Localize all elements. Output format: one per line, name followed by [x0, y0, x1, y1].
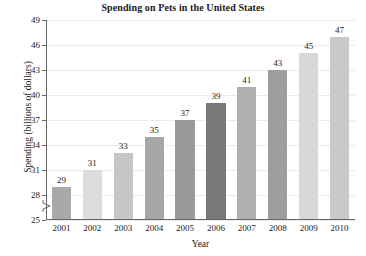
- bar-group: 37: [175, 20, 194, 220]
- y-axis-tick-label: 46: [31, 41, 40, 50]
- x-axis-tick-label: 2010: [324, 223, 355, 234]
- x-axis-tick-label: 2005: [170, 223, 201, 234]
- bar-value-label: 47: [330, 25, 349, 35]
- y-axis-tick-label: 37: [31, 116, 40, 125]
- bar-value-label: 33: [114, 141, 133, 151]
- bar-value-label: 39: [206, 91, 225, 101]
- x-axis-tick-label: 2007: [231, 223, 262, 234]
- bar: [299, 53, 318, 220]
- bar-value-label: 45: [299, 41, 318, 51]
- x-axis-tick-labels: 2001200220032004200520062007200820092010: [46, 223, 355, 237]
- bar-group: 41: [237, 20, 256, 220]
- y-axis-tick-mark: [42, 220, 46, 221]
- x-axis-tick-label: 2004: [139, 223, 170, 234]
- bar-group: 33: [114, 20, 133, 220]
- bar: [330, 37, 349, 220]
- bar-group: 31: [83, 20, 102, 220]
- bar-chart-figure: Spending on Pets in the United States Sp…: [0, 0, 366, 256]
- x-axis-tick-label: 2009: [293, 223, 324, 234]
- x-axis-title: Year: [46, 238, 355, 250]
- x-axis-tick-label: 2006: [201, 223, 232, 234]
- bar-value-label: 43: [268, 58, 287, 68]
- y-axis-tick-label: 25: [31, 216, 40, 225]
- bar-value-label: 31: [83, 158, 102, 168]
- x-axis-tick-label: 2003: [108, 223, 139, 234]
- x-axis-line: [46, 219, 355, 220]
- axis-break-icon: [42, 200, 51, 213]
- x-axis-tick-label: 2002: [77, 223, 108, 234]
- x-axis-tick-label: 2008: [262, 223, 293, 234]
- bar: [114, 153, 133, 220]
- bar: [268, 70, 287, 220]
- chart-title: Spending on Pets in the United States: [0, 1, 366, 14]
- bar-group: 35: [145, 20, 164, 220]
- bar: [83, 170, 102, 220]
- y-axis-tick-label: 31: [31, 166, 40, 175]
- bar-value-label: 29: [52, 175, 71, 185]
- bar-group: 47: [330, 20, 349, 220]
- plot-area: 252831343740434649 29313335373941434547: [46, 20, 355, 220]
- bar: [175, 120, 194, 220]
- bar-group: 45: [299, 20, 318, 220]
- bar-value-label: 35: [145, 125, 164, 135]
- bar-group: 43: [268, 20, 287, 220]
- bar-group: 29: [52, 20, 71, 220]
- y-axis-tick-label: 28: [31, 191, 40, 200]
- bar: [145, 137, 164, 220]
- bar: [237, 87, 256, 220]
- bar: [52, 187, 71, 220]
- bar-value-label: 41: [237, 75, 256, 85]
- bar-value-label: 37: [175, 108, 194, 118]
- gridline: [46, 220, 355, 221]
- bars-group: 29313335373941434547: [46, 20, 355, 220]
- y-axis-line: [46, 20, 47, 220]
- y-axis-tick-label: 40: [31, 91, 40, 100]
- x-axis-tick-label: 2001: [46, 223, 77, 234]
- bar: [206, 103, 225, 220]
- bar-group: 39: [206, 20, 225, 220]
- y-axis-tick-label: 43: [31, 66, 40, 75]
- y-axis-tick-label: 49: [31, 16, 40, 25]
- y-axis-tick-label: 34: [31, 141, 40, 150]
